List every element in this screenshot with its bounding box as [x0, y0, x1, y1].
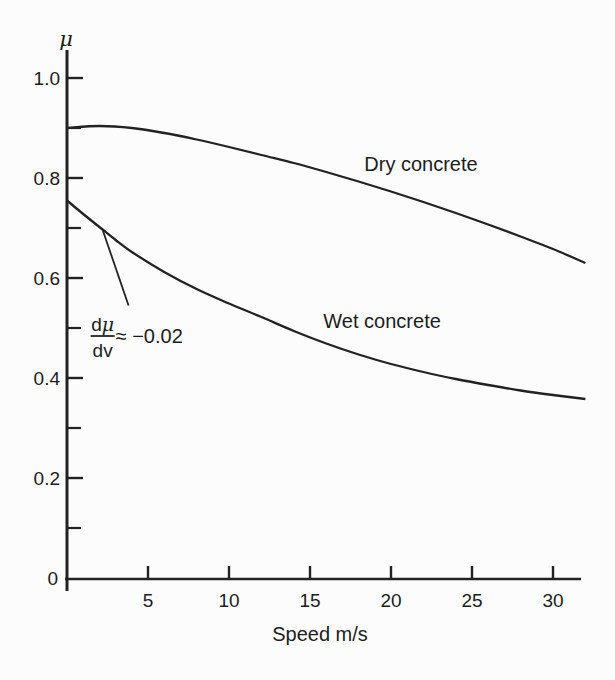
- origin-label: 0: [47, 568, 58, 589]
- scanned-figure-page: 0.20.40.60.81.0051015202530μSpeed m/sDry…: [0, 0, 615, 680]
- x-tick-label-15: 15: [299, 590, 320, 611]
- x-tick-label-20: 20: [380, 590, 401, 611]
- mu-axis-label: μ: [59, 27, 73, 51]
- y-tick-label-0.2: 0.2: [34, 468, 60, 489]
- slope-numerator: dμ: [91, 313, 114, 335]
- slope-value: ≈ −0.02: [116, 325, 183, 347]
- wet-concrete-curve: [67, 201, 585, 400]
- y-tick-label-0.6: 0.6: [34, 268, 60, 289]
- slope-denominator: dv: [93, 340, 114, 361]
- dry-concrete-curve: [67, 126, 585, 263]
- y-tick-label-1: 1.0: [34, 68, 60, 89]
- x-tick-label-25: 25: [461, 590, 482, 611]
- x-tick-label-5: 5: [143, 590, 154, 611]
- x-tick-label-10: 10: [218, 590, 239, 611]
- dry-concrete-label: Dry concrete: [364, 153, 477, 175]
- friction-coefficient-chart: 0.20.40.60.81.0051015202530μSpeed m/sDry…: [0, 0, 615, 680]
- speed-axis-label: Speed m/s: [272, 623, 368, 645]
- y-tick-label-0.4: 0.4: [34, 368, 61, 389]
- y-tick-label-0.8: 0.8: [34, 168, 60, 189]
- wet-concrete-label: Wet concrete: [323, 310, 440, 332]
- x-tick-label-30: 30: [542, 590, 563, 611]
- slope-annotation-group: dμdv≈ −0.02: [91, 313, 183, 361]
